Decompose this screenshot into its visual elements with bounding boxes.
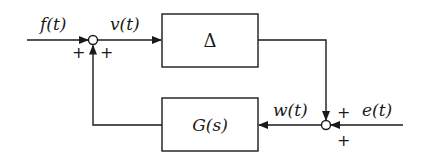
signal-v-label: v(t) [110,14,140,34]
block-diagram: f(t) + + v(t) Δ + + e(t) w(t) G(s) [0,0,426,164]
signal-e-label: e(t) [362,100,392,120]
g-block-label: G(s) [192,115,228,135]
summing-junction-left [89,36,98,45]
signal-w-label: w(t) [273,100,308,120]
junction-left-sign-1: + [72,43,85,62]
junction-right-sign-2: + [337,131,350,150]
junction-left-sign-2: + [100,43,113,62]
delta-block-label: Δ [204,30,217,51]
summing-junction-right [322,121,331,130]
signal-f-label: f(t) [38,14,66,34]
junction-right-sign-1: + [337,103,350,122]
